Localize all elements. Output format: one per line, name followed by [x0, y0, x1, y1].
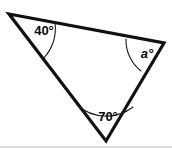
angle-label-top-left: 40° — [34, 23, 54, 38]
angle-label-right: a° — [141, 46, 154, 61]
diagram-canvas: 40° a° 70° — [0, 0, 172, 148]
angle-label-bottom: 70° — [98, 109, 118, 124]
triangle-outline — [9, 14, 164, 141]
angle-arc-right — [126, 39, 141, 71]
triangle-angle-diagram: 40° a° 70° — [0, 0, 172, 148]
bottom-edge-shade — [0, 146, 172, 148]
